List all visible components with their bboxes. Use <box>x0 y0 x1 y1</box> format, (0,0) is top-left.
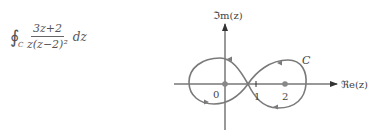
tick-label-0: 0 <box>213 89 219 100</box>
imaginary-axis-label: ℑm(z) <box>213 10 243 21</box>
real-axis-label: ℜe(z) <box>341 79 368 90</box>
tick-label-1: 1 <box>254 91 260 102</box>
complex-plane-diagram: 0 1 2 C ℜe(z) ℑm(z) <box>0 0 380 139</box>
curve-label: C <box>302 54 311 67</box>
point-0 <box>222 81 228 87</box>
tick-label-2: 2 <box>282 91 288 102</box>
direction-arrow <box>273 105 278 110</box>
point-2 <box>282 81 288 87</box>
